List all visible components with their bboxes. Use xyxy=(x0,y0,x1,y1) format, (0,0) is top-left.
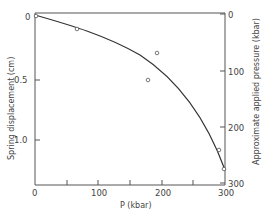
y-axis-label: Spring displacement (cm) xyxy=(7,57,16,160)
data-points xyxy=(34,14,226,171)
data-point xyxy=(217,148,221,152)
y-tick-0: 0 xyxy=(25,12,30,22)
chart: 0 0.5 1.0 0 100 200 300 P (kbar) 0 100 2… xyxy=(0,0,266,214)
y-tick-1.0: 1.0 xyxy=(14,135,28,145)
y2-axis-label: Approximate applied pressure (kbar) xyxy=(252,18,261,165)
y-tick-0.5: 0.5 xyxy=(14,75,28,85)
x-tick-200: 200 xyxy=(155,188,171,198)
data-point xyxy=(34,14,38,18)
y2-tick-100: 100 xyxy=(228,67,244,77)
y2-tick-300: 300 xyxy=(228,179,244,189)
fitted-curve xyxy=(35,15,225,170)
data-point xyxy=(146,78,150,82)
x-tick-0: 0 xyxy=(32,188,37,198)
x-axis-label: P (kbar) xyxy=(120,201,152,210)
data-point xyxy=(222,167,226,171)
x-axis xyxy=(67,180,193,185)
left-y-axis xyxy=(35,80,40,140)
data-point xyxy=(155,51,159,55)
x-tick-300: 300 xyxy=(218,188,234,198)
data-point xyxy=(75,27,79,31)
x-tick-100: 100 xyxy=(91,188,107,198)
y2-tick-200: 200 xyxy=(228,123,244,133)
plot-frame xyxy=(35,13,225,185)
y2-tick-0: 0 xyxy=(228,10,233,20)
